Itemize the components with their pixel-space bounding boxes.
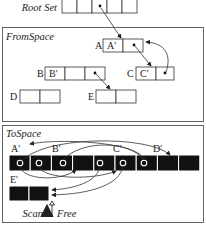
object-b-forward: B' (49, 68, 58, 79)
tospace-row (9, 155, 200, 171)
root-cell (107, 0, 122, 13)
tospace-cell-e (29, 186, 49, 201)
object-b-label: B (37, 68, 44, 79)
object-b-pointer-dot (94, 72, 97, 75)
object-e-cell (96, 90, 116, 103)
object-a-label: A (95, 40, 103, 51)
copying-gc-diagram: Root Set FromSpace A A' B B' C C' D (0, 0, 206, 226)
object-c-pointer-dot (164, 72, 167, 75)
tospace-label-e: E' (10, 174, 18, 185)
root-cell (122, 0, 137, 13)
object-c-label: C (127, 68, 134, 79)
object-d-label: D (10, 91, 17, 102)
tospace-cell (179, 155, 200, 171)
object-e-label: E (88, 91, 94, 102)
root-set: Root Set (21, 0, 137, 13)
object-d-cell (40, 90, 60, 103)
from-space: FromSpace A A' B B' C C' D E (3, 8, 204, 122)
root-cell (62, 0, 77, 13)
object-c-forward: C' (140, 68, 149, 79)
tospace-label-c: C' (113, 143, 122, 154)
object-a-pointer-dot (133, 44, 136, 47)
scan-label: Scan (23, 208, 43, 219)
tospace-cell-e (9, 186, 29, 201)
tospace-cell (157, 155, 178, 171)
tospace-cell (51, 155, 72, 171)
free-label: Free (56, 208, 77, 219)
tospace-cell (9, 155, 30, 171)
to-space: ToSpace A' B' C' D' E' Scan Free (3, 126, 204, 223)
tospace-label-d: D' (153, 143, 162, 154)
from-space-title: FromSpace (5, 31, 54, 42)
to-space-title: ToSpace (6, 128, 42, 139)
tospace-cell (30, 155, 51, 171)
root-pointer-dot (99, 5, 102, 8)
object-a-forward: A' (107, 40, 116, 51)
tospace-cell (73, 155, 94, 171)
object-b-cell (65, 67, 85, 80)
object-d-cell (20, 90, 40, 103)
root-set-label: Root Set (21, 2, 58, 13)
tospace-label-a: A' (11, 143, 20, 154)
root-cell (77, 0, 92, 13)
object-e-cell (116, 90, 136, 103)
